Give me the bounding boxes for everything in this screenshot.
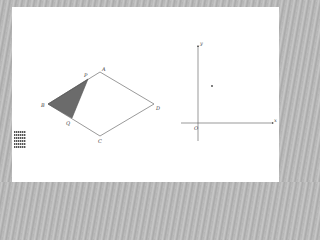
- label-c: C: [98, 138, 102, 144]
- legend-line: [14, 137, 26, 139]
- y-axis-label: y: [199, 40, 203, 47]
- x-axis-label: x: [274, 117, 277, 123]
- legend-line: [14, 131, 26, 133]
- label-q: Q: [66, 120, 70, 126]
- legend-line: [14, 146, 26, 148]
- plotted-point: [211, 85, 213, 87]
- legend-line: [14, 140, 26, 142]
- legend-line: [14, 143, 26, 145]
- legend-line: [14, 134, 26, 136]
- shaded-triangle-bpq: [48, 79, 88, 118]
- origin-label: O: [194, 125, 198, 131]
- legend-text-block: [14, 131, 26, 149]
- geometry-figure: A P B Q C D y x O: [0, 0, 297, 182]
- label-a: A: [101, 66, 106, 72]
- label-p: P: [83, 72, 88, 78]
- label-b: B: [40, 102, 45, 108]
- label-d: D: [155, 105, 160, 111]
